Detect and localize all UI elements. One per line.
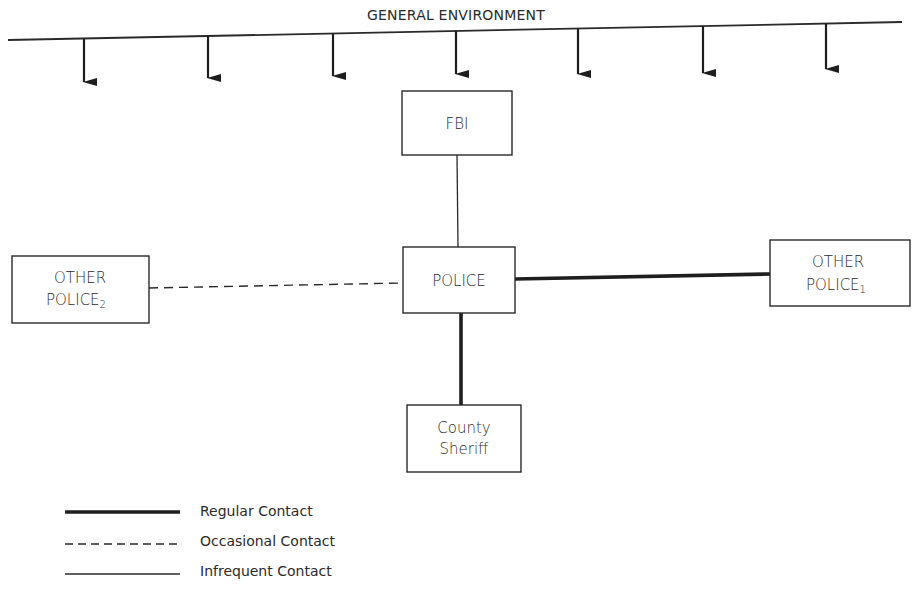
county-sheriff-line1: County bbox=[437, 419, 491, 437]
county-sheriff-line2: Sheriff bbox=[440, 440, 490, 458]
other-police-2-box bbox=[12, 256, 149, 323]
legend-regular-label: Regular Contact bbox=[200, 503, 313, 519]
other-police-1-box bbox=[770, 240, 910, 306]
general-environment-title: GENERAL ENVIRONMENT bbox=[367, 7, 545, 23]
node-police: POLICE bbox=[403, 247, 515, 313]
legend-infrequent-label: Infrequent Contact bbox=[200, 563, 332, 579]
edge-police-other-police-2-occasional bbox=[149, 283, 403, 288]
county-sheriff-box bbox=[407, 405, 521, 472]
node-county-sheriff: County Sheriff bbox=[407, 405, 521, 472]
edge-police-fbi-infrequent bbox=[457, 155, 458, 247]
legend: Regular Contact Occasional Contact Infre… bbox=[65, 503, 336, 579]
diagram-canvas: GENERAL ENVIRONMENT FBI POLICE OTHER POL… bbox=[0, 0, 914, 593]
node-other-police-1: OTHER POLICE1 bbox=[770, 240, 910, 306]
legend-occasional-label: Occasional Contact bbox=[200, 533, 336, 549]
other-police-2-line1: OTHER bbox=[54, 269, 106, 287]
other-police-1-line1: OTHER bbox=[812, 253, 864, 271]
other-police-1-line2: POLICE1 bbox=[806, 276, 866, 295]
other-police-2-line2: POLICE2 bbox=[46, 291, 106, 310]
node-other-police-2: OTHER POLICE2 bbox=[12, 256, 149, 323]
edge-police-other-police-1-regular bbox=[515, 274, 770, 279]
node-fbi: FBI bbox=[402, 91, 512, 155]
police-label: POLICE bbox=[432, 272, 486, 290]
environment-arrows bbox=[84, 24, 826, 83]
fbi-label: FBI bbox=[446, 115, 469, 133]
